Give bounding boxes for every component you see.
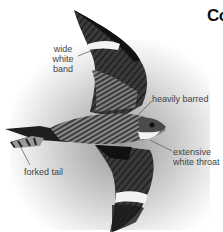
leader-wide-white-band	[78, 50, 93, 56]
leader-forked-tail	[20, 146, 30, 165]
label-line: white	[50, 54, 76, 64]
species-title: Co	[207, 6, 223, 26]
label-white-throat: extensive white throat	[173, 147, 220, 167]
label-heavily-barred: heavily barred	[152, 94, 209, 104]
label-line: band	[50, 64, 76, 74]
nighthawk-illustration	[0, 0, 223, 232]
label-line: wide	[50, 44, 76, 54]
eye	[150, 123, 155, 128]
leader-white-throat	[150, 140, 172, 151]
label-line: white throat	[173, 157, 220, 167]
label-line: extensive	[173, 147, 220, 157]
label-forked-tail: forked tail	[24, 167, 63, 177]
label-wide-white-band: wide white band	[50, 44, 76, 74]
field-guide-plate: Co wide white band heavily barred extens…	[0, 0, 223, 232]
